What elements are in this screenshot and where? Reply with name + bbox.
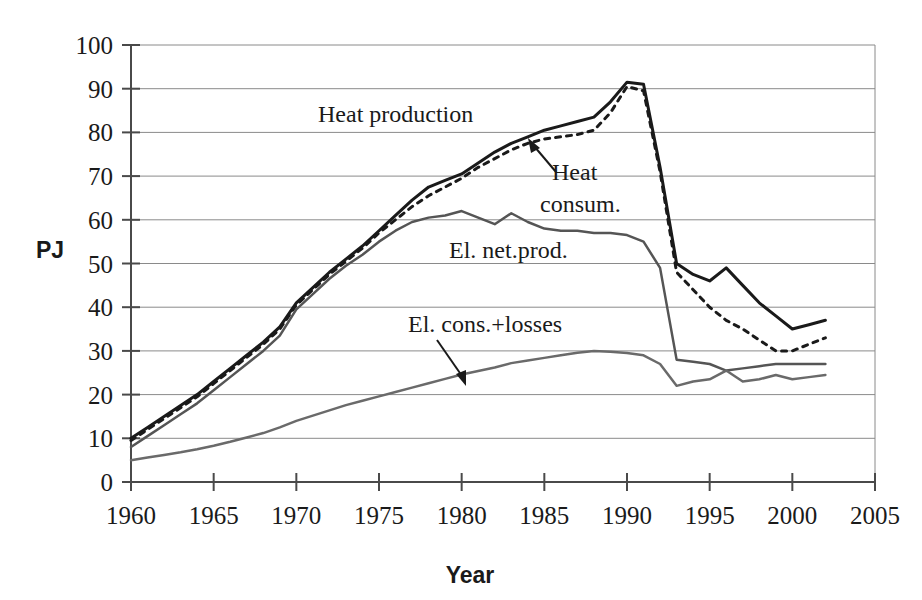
chart-container: 0102030405060708090100 19601965197019751… [0,0,922,600]
x-tick-label-1975: 1975 [354,502,404,529]
x-tick-label-1985: 1985 [519,502,569,529]
y-tick-label-20: 20 [88,382,113,409]
y-tick-label-90: 90 [88,76,113,103]
heat-production-label: Heat production [318,101,473,127]
y-tick-label-0: 0 [101,469,114,496]
heat-consum-label-line1: Heat [552,159,598,185]
el-net-prod-label: El. net.prod. [449,237,568,263]
line-chart: 0102030405060708090100 19601965197019751… [0,0,922,600]
y-tick-label-60: 60 [88,207,113,234]
y-tick-label-40: 40 [88,294,113,321]
x-tick-label-1995: 1995 [685,502,735,529]
x-tick-label-1960: 1960 [106,502,156,529]
x-tick-label-1980: 1980 [437,502,487,529]
y-tick-label-50: 50 [88,251,113,278]
x-tick-label-2005: 2005 [850,502,900,529]
y-tick-label-80: 80 [88,119,113,146]
y-tick-label-70: 70 [88,163,113,190]
y-tick-label-100: 100 [76,32,114,59]
y-tick-label-10: 10 [88,425,113,452]
x-tick-label-1990: 1990 [602,502,652,529]
x-tick-label-1965: 1965 [189,502,239,529]
x-tick-label-2000: 2000 [767,502,817,529]
y-axis-title: PJ [36,237,64,263]
heat-consum-label-line2: consum. [540,191,621,217]
y-tick-label-30: 30 [88,338,113,365]
x-axis-title: Year [446,562,495,588]
el-cons-losses-label: El. cons.+losses [408,311,562,337]
x-tick-label-1970: 1970 [271,502,321,529]
